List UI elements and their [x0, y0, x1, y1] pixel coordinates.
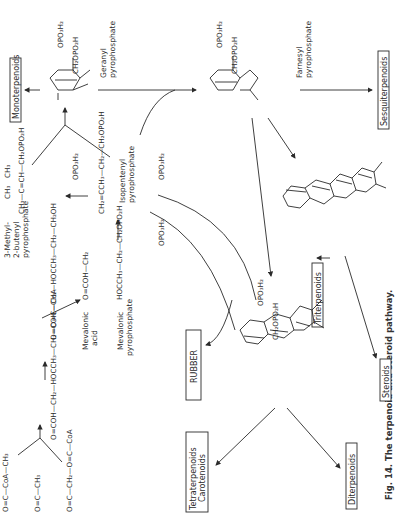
label-mevalonic-acid-1: Mevalonic	[81, 312, 90, 350]
formula-isopentenyl-chain: CH₂=CCH₃—CH₂—CH₂OPO₂H	[97, 111, 106, 214]
formula-acetyl-coa-1: O=C—CoA—CH₃	[1, 453, 10, 512]
arrow-isopentenyl-to-farnesyl	[140, 90, 175, 135]
terpenoid-pathway-diagram: Fig. 14. The terpenoid and steroid pathw…	[0, 0, 403, 514]
formula-geranyl-ch2opo2h: CH₂OPO₂H	[71, 37, 80, 74]
label-geranyl-2: pyrophosphate	[108, 21, 117, 78]
arrow-farnesyl-to-triterpenoid	[268, 118, 295, 158]
rubber-chain-structure	[240, 300, 324, 344]
arrow-farnesyl-to-rubber-branch	[252, 118, 271, 276]
box-diterpenoids: Diterpenoids	[346, 443, 357, 509]
label-mevalonic-pp-2: pyrophosphate	[125, 299, 134, 356]
geranyl-structure	[50, 58, 90, 100]
box-monoterpenoids: Monoterpenoids	[10, 54, 21, 122]
formula-methylbutenyl-top: CH₃	[3, 186, 12, 199]
box-steroids: Steroids	[380, 359, 391, 401]
triterpenoid-structure	[283, 162, 386, 208]
label-farnesyl-1: Farnesyl	[295, 47, 304, 78]
arrow-to-rubber	[206, 300, 232, 345]
box-sesquiterpenoids: Sesquiterpenoids	[378, 51, 389, 129]
formula-mevpp-top: O=COH—CH₂	[81, 252, 90, 300]
label-mevalonic-pp-1: Mevalonic	[116, 312, 125, 350]
arrow-merge-acetyl	[18, 438, 62, 462]
label-methylbutenyl-2: 2-butenyl	[12, 222, 21, 258]
box-tetraterpenoids-label-1: Tetraterpenoids	[189, 447, 198, 511]
arrow-to-steroids	[345, 256, 376, 358]
arrow-to-diterpenoids	[287, 408, 340, 468]
box-triterpenoids-label: Triterpenoids	[314, 272, 323, 325]
formula-rubber-opo3h2: OPO₃H₂	[256, 279, 265, 306]
formula-isopentenyl-opo3h2: OPO₃H₂	[157, 153, 166, 180]
formula-mevpp-chain: HOCCH₃—CH₂—CH₂OPO₂H	[115, 206, 124, 300]
formula-farnesyl-opo3h2: OPO₃H₂	[215, 21, 224, 48]
formula-methylbutenyl-chain: CH₃—C=CH—CH₂OPO₂H	[17, 128, 26, 214]
formula-rubber-ch2opo2h: CH₂OPO₂H	[271, 303, 280, 340]
formula-methylbutenyl-opo3h2: OPO₃H₂	[71, 153, 80, 180]
formula-farnesyl-ch2opo2h: CH₂OPO₂H	[230, 37, 239, 74]
arrow-isopentenyl-to-rubber-chain	[158, 195, 256, 300]
label-farnesyl-2: pyrophosphate	[304, 21, 313, 78]
box-steroids-label: Steroids	[382, 365, 391, 398]
formula-geranyl-opo3h2: OPO₃H₂	[56, 21, 65, 48]
box-rubber-label: RUBBER	[190, 350, 199, 383]
box-monoterpenoids-label: Monoterpenoids	[12, 54, 21, 119]
box-sesquiterpenoids-label: Sesquiterpenoids	[380, 57, 389, 126]
formula-acetoacetyl-coa: O=C—CH₂—O=C—CoA	[65, 429, 74, 512]
label-mevalonic-acid-2: acid	[90, 330, 99, 346]
box-tetraterpenoids-label-2: Carotenoids	[198, 454, 207, 502]
box-rubber: RUBBER	[186, 330, 201, 400]
box-tetraterpenoids: Tetraterpenoids Carotenoids	[186, 432, 208, 512]
arrow-to-tetraterpenoids	[216, 408, 275, 465]
arrow-mevalonic-acid-to-mevpp	[42, 300, 80, 318]
formula-acetyl-coa-2: O=C—CH₃	[33, 475, 42, 512]
label-methylbutenyl-1: 3-Methyl-	[3, 222, 12, 258]
label-isopentenyl-1: Isopentenyl	[118, 159, 127, 203]
label-isopentenyl-2: pyrophosphate	[127, 146, 136, 203]
label-geranyl-1: Geranyl	[99, 48, 108, 78]
formula-methylbutenyl-side: CH₃	[3, 165, 12, 178]
box-diterpenoids-label: Diterpenoids	[348, 454, 357, 505]
formula-hmg-coa: O=COH—CH₂—HOCCH₃—CH₂—O=C—CoA	[49, 289, 58, 440]
formula-mevpp-opo3h2: OPO₃H₂	[157, 219, 166, 246]
